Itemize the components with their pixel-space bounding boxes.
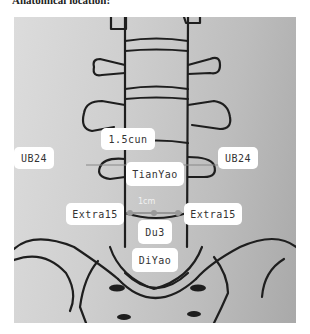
- acupoint-label-extra15-right: Extra15: [184, 203, 242, 225]
- acupoint-label-du3: Du3: [138, 220, 172, 244]
- acupoint-label-extra15-left: Extra15: [66, 203, 124, 225]
- acupoint-label-ub24-left: UB24: [14, 147, 54, 169]
- acupoint-label-diyao: DiYao: [132, 248, 178, 272]
- caption: Anatomical location:: [12, 0, 110, 6]
- measure-label-1cm: 1cm: [138, 197, 155, 206]
- acupoint-label-tianyao: TianYao: [126, 162, 184, 186]
- anatomy-diagram: 1.5cun UB24 UB24 TianYao 1cm Extra15 Ext…: [14, 17, 296, 323]
- measure-label-1-5cun: 1.5cun: [101, 128, 155, 150]
- acupoint-label-ub24-right: UB24: [218, 147, 258, 169]
